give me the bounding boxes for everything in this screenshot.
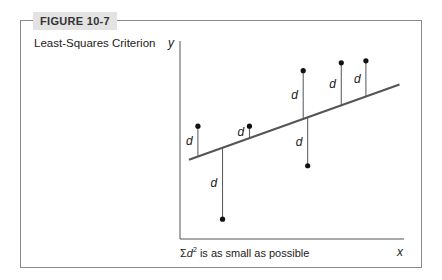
residual-label: d bbox=[186, 134, 193, 148]
data-point bbox=[363, 58, 368, 63]
caption-text: is as small as possible bbox=[197, 247, 310, 259]
residual-label: d bbox=[354, 72, 361, 86]
data-point bbox=[305, 163, 310, 168]
data-point bbox=[247, 124, 252, 129]
sigma-symbol: Σ bbox=[180, 247, 187, 259]
residual-label: d bbox=[211, 176, 218, 190]
data-point bbox=[339, 60, 344, 65]
data-point bbox=[301, 68, 306, 73]
data-point bbox=[195, 124, 200, 129]
residual-label: d bbox=[296, 135, 303, 149]
x-axis-label: x bbox=[396, 245, 404, 259]
caption: Σd2 is as small as possible bbox=[180, 246, 309, 259]
y-axis-label: y bbox=[167, 36, 175, 50]
residual-label: d bbox=[329, 77, 336, 91]
data-point bbox=[220, 217, 225, 222]
least-squares-plot: y x ddddddd bbox=[0, 0, 442, 280]
residual-label: d bbox=[237, 125, 244, 139]
residual-label: d bbox=[291, 88, 298, 102]
